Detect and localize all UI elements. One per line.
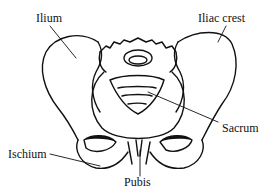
label-iliac-crest: Iliac crest: [198, 12, 245, 24]
label-sacrum: Sacrum: [222, 122, 259, 134]
sacrum-top: [100, 38, 177, 72]
label-ischium: Ischium: [8, 148, 47, 160]
pelvic-inlet: [92, 72, 185, 139]
label-ilium: Ilium: [36, 12, 62, 24]
label-pubis: Pubis: [124, 176, 151, 188]
right-ischium-outline: [150, 140, 203, 168]
pubic-symphysis: [128, 140, 150, 164]
ischium-leader: [50, 154, 100, 166]
pelvis-diagram: Ilium Iliac crest Sacrum Ischium Pubis: [0, 0, 277, 188]
